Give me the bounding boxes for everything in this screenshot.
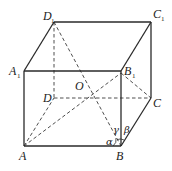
label-O: O [75,79,84,93]
label-A1-sub: 1 [17,72,21,80]
diagonal-D1B [54,22,121,146]
label-B: B [116,149,124,163]
edge-AD [24,98,54,146]
cuboid-diagram: D 1 C 1 A 1 B 1 D C A B O α γ β [0,0,172,171]
label-alpha: α [106,136,113,147]
label-beta: β [123,124,130,135]
label-A: A [18,149,27,163]
edge-A1D1 [24,22,54,71]
label-B1: B [124,64,132,78]
label-C: C [153,96,162,110]
edge-BC [121,98,151,146]
label-D: D [42,91,52,105]
angle-mark-alpha [113,138,116,146]
label-D1-sub: 1 [51,17,55,25]
label-C1-sub: 1 [161,15,165,23]
cuboid-svg: D 1 C 1 A 1 B 1 D C A B O α γ β [0,0,172,171]
label-A1: A [8,64,17,78]
label-gamma: γ [113,124,119,135]
label-B1-sub: 1 [132,72,136,80]
